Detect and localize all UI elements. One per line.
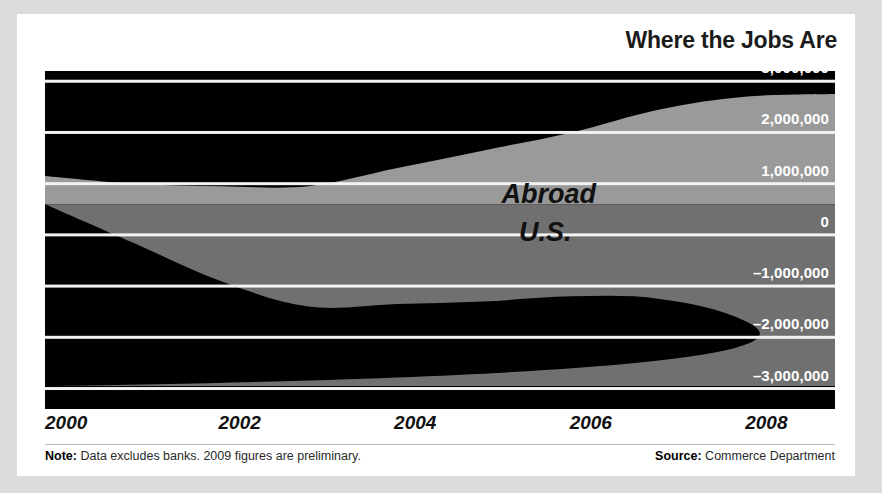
gridline — [45, 387, 835, 390]
footer-note: Note: Data excludes banks. 2009 figures … — [45, 449, 361, 463]
gridline — [45, 80, 835, 83]
x-axis-tick-label: 2006 — [570, 412, 612, 434]
page-title: Where the Jobs Are — [625, 27, 837, 54]
source-text: Commerce Department — [702, 449, 835, 463]
note-text: Data excludes banks. 2009 figures are pr… — [77, 449, 361, 463]
area-series-us — [45, 204, 835, 386]
x-axis-tick-label: 2002 — [219, 412, 261, 434]
note-label: Note: — [45, 449, 77, 463]
chart-footer: Note: Data excludes banks. 2009 figures … — [45, 444, 835, 469]
chart-card: Where the Jobs Are 3,000,0002,000,0001,0… — [17, 14, 855, 476]
gridline — [45, 233, 835, 236]
x-axis-tick-label: 2004 — [394, 412, 436, 434]
x-axis-tick-label: 2000 — [45, 412, 87, 434]
gridline — [45, 285, 835, 288]
chart-plot-area: 3,000,0002,000,0001,000,0000–1,000,000–2… — [45, 71, 835, 409]
x-axis-tick-label: 2008 — [745, 412, 787, 434]
x-axis-labels: 20002002200420062008 — [45, 412, 835, 442]
area-series-abroad — [45, 94, 835, 204]
gridline — [45, 336, 835, 339]
stacked-area-svg — [45, 71, 835, 409]
area-series-group — [45, 94, 835, 386]
title-row: Where the Jobs Are — [17, 14, 855, 66]
gridline — [45, 131, 835, 134]
source-label: Source: — [655, 449, 702, 463]
chart-page: Where the Jobs Are 3,000,0002,000,0001,0… — [0, 0, 882, 493]
footer-source: Source: Commerce Department — [655, 449, 835, 463]
gridline — [45, 182, 835, 185]
